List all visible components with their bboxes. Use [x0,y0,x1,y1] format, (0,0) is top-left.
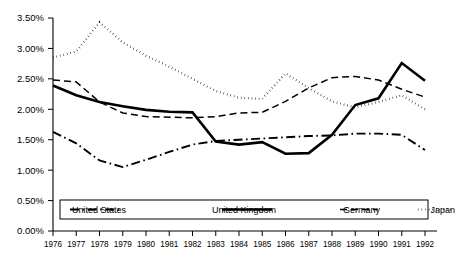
y-tick-label: 3.50% [17,12,44,23]
x-tick-label: 1984 [230,240,249,249]
y-axis-tick-group: 0.00%0.50%1.00%1.50%2.00%2.50%3.00%3.50% [17,12,53,236]
y-tick-label: 0.00% [17,225,44,236]
line-chart: 0.00%0.50%1.00%1.50%2.00%2.50%3.00%3.50%… [0,0,464,263]
x-tick-label: 1976 [44,240,63,249]
x-tick-label: 1987 [300,240,319,249]
series-line-japan [53,22,425,109]
chart-legend: United StatesUnited KingdomGermanyJapan [60,200,455,219]
y-tick-label: 1.50% [17,134,44,145]
x-tick-label: 1985 [253,240,272,249]
series-line-germany [53,76,425,117]
y-tick-label: 2.00% [17,104,44,115]
series-group [53,22,425,167]
x-axis-tick-group: 1976197719781979198019811982198319841985… [44,231,435,249]
x-tick-label: 1986 [276,240,295,249]
x-tick-label: 1989 [346,240,365,249]
chart-canvas: 0.00%0.50%1.00%1.50%2.00%2.50%3.00%3.50%… [0,0,464,263]
x-tick-label: 1990 [369,240,388,249]
y-tick-label: 2.50% [17,73,44,84]
legend-label-united-kingdom: United Kingdom [212,205,276,215]
y-tick-label: 1.00% [17,165,44,176]
y-tick-label: 3.00% [17,43,44,54]
legend-label-japan: Japan [430,205,455,215]
x-tick-label: 1991 [393,240,412,249]
x-tick-label: 1979 [114,240,133,249]
series-line-united-states [53,132,425,167]
x-tick-label: 1992 [416,240,435,249]
y-tick-label: 0.50% [17,195,44,206]
x-tick-label: 1988 [323,240,342,249]
legend-label-united-states: United States [72,205,127,215]
legend-label-germany: Germany [343,205,381,215]
x-tick-label: 1983 [207,240,226,249]
x-tick-label: 1977 [67,240,86,249]
x-tick-label: 1980 [137,240,156,249]
x-tick-label: 1982 [183,240,202,249]
x-tick-label: 1978 [90,240,109,249]
x-tick-label: 1981 [160,240,179,249]
